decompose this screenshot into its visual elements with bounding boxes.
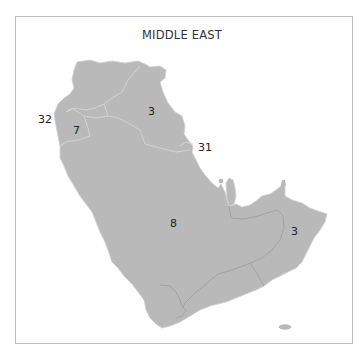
- bahrain-island: [219, 179, 224, 184]
- region-value-label: 8: [170, 218, 177, 229]
- landmass: [54, 60, 327, 328]
- region-value-label: 32: [38, 114, 52, 125]
- region-value-label: 7: [73, 125, 80, 136]
- region-value-label: 31: [198, 142, 212, 153]
- musandam-tip: [281, 180, 286, 186]
- region-value-label: 3: [291, 226, 298, 237]
- middle-east-map: [0, 0, 364, 351]
- socotra-island: [279, 325, 291, 329]
- region-value-label: 3: [148, 106, 155, 117]
